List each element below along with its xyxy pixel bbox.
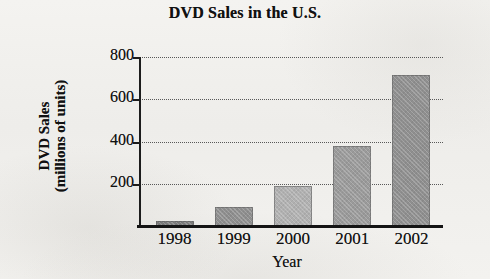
- x-axis-tick-label-2001: 2001: [335, 229, 369, 249]
- plot-area: [139, 57, 435, 226]
- x-axis-line: [137, 225, 443, 228]
- bar-2001: [333, 146, 371, 226]
- chart-title: DVD Sales in the U.S.: [0, 4, 490, 22]
- y-axis-tick-label: 200: [88, 173, 134, 191]
- y-axis-title-line2: (millions of units): [52, 79, 68, 192]
- gridline: [139, 57, 443, 58]
- bar-2002: [392, 75, 430, 226]
- bar-1999: [215, 207, 253, 226]
- y-axis-title-text: DVD Sales (millions of units): [36, 79, 68, 192]
- x-axis-tick-labels: 19981999200020012002: [139, 229, 435, 253]
- y-axis-title: DVD Sales (millions of units): [22, 48, 82, 223]
- chart-page: DVD Sales in the U.S. DVD Sales (million…: [0, 0, 490, 279]
- y-axis-tick-label: 400: [88, 131, 134, 149]
- bar-2000: [274, 186, 312, 226]
- y-axis-title-line1: DVD Sales: [36, 101, 52, 170]
- x-axis-tick-label-2000: 2000: [276, 229, 310, 249]
- x-axis-title: Year: [139, 253, 435, 271]
- y-axis-tick-label: 800: [88, 46, 134, 64]
- y-axis-tick-labels: 200400600800: [84, 57, 134, 226]
- x-axis-tick-label-1999: 1999: [217, 229, 251, 249]
- x-axis-tick-label-1998: 1998: [158, 229, 192, 249]
- y-axis-tick-label: 600: [88, 88, 134, 106]
- x-axis-tick-label-2002: 2002: [394, 229, 428, 249]
- plot-inner: [139, 57, 435, 226]
- y-axis-line: [139, 57, 141, 226]
